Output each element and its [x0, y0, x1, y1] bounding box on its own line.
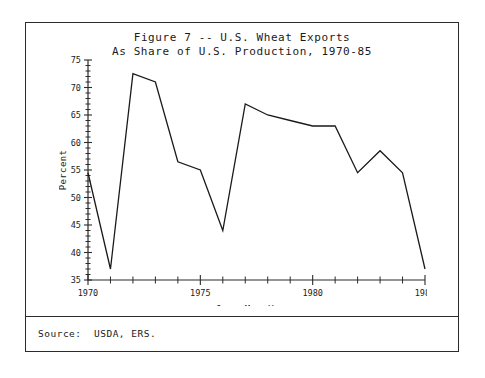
x-axis-title: June-May Years	[216, 304, 297, 306]
y-tick-label: 35	[71, 275, 81, 285]
y-tick-label: 40	[71, 248, 81, 258]
y-tick-label: 60	[71, 138, 81, 148]
title-line-1: Figure 7 -- U.S. Wheat Exports	[26, 31, 458, 45]
y-tick-label: 50	[71, 193, 81, 203]
x-tick-label: 1985	[415, 288, 427, 298]
x-tick-label: 1980	[302, 288, 322, 298]
data-series-line	[88, 74, 425, 269]
figure-frame: Figure 7 -- U.S. Wheat Exports As Share …	[25, 22, 459, 352]
figure-title: Figure 7 -- U.S. Wheat Exports As Share …	[26, 31, 458, 59]
y-tick-label: 45	[71, 220, 81, 230]
y-tick-label: 55	[71, 165, 81, 175]
source-divider	[26, 316, 458, 317]
line-chart: 3540455055606570751970197519801985June-M…	[59, 56, 427, 306]
x-tick-label: 1970	[78, 288, 98, 298]
chart-plot-area: 3540455055606570751970197519801985June-M…	[59, 56, 427, 306]
y-axis-title: Percent	[59, 150, 68, 191]
source-note: Source: USDA, ERS.	[38, 328, 156, 339]
y-tick-label: 65	[71, 110, 81, 120]
y-tick-label: 75	[71, 56, 81, 65]
y-tick-label: 70	[71, 83, 81, 93]
x-tick-label: 1975	[190, 288, 210, 298]
